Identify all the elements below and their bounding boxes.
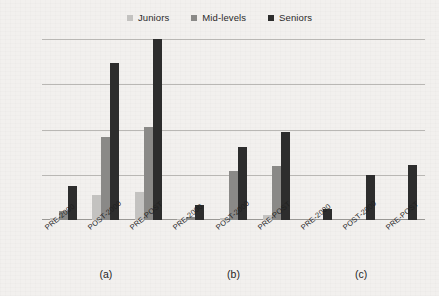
x-label-group: PRE-2000POST-2000PRE-POST: [42, 221, 170, 267]
legend-swatch-icon: [127, 15, 133, 21]
x-label-slot: POST-2000: [340, 221, 383, 267]
bar-group-a: [42, 39, 170, 220]
x-label-slot: POST-2000: [85, 221, 128, 267]
group-label: (a): [42, 268, 170, 286]
bar-clusters: [170, 39, 298, 220]
legend-item-juniors: Juniors: [127, 12, 169, 23]
x-label-slot: POST-2000: [212, 221, 255, 267]
bar-cluster-post-2000: [340, 39, 383, 220]
plot-area: [42, 39, 425, 220]
bar-cluster-pre-2000: [170, 39, 213, 220]
bar-cluster-pre-post: [255, 39, 298, 220]
legend-item-sen: Seniors: [268, 12, 312, 23]
bar-cluster-post-2000: [212, 39, 255, 220]
grouped-bar-chart: JuniorsMid-levelsSeniors 02505007501,000…: [0, 0, 439, 296]
x-label-group: PRE-2000POST-2000PRE-POST: [170, 221, 298, 267]
x-axis-labels: PRE-2000POST-2000PRE-POSTPRE-2000POST-20…: [42, 221, 425, 267]
bar-cluster-pre-post: [382, 39, 425, 220]
legend-label: Mid-levels: [202, 12, 246, 23]
legend-item-mid: Mid-levels: [191, 12, 246, 23]
bar-groups: [42, 39, 425, 220]
x-label-slot: PRE-POST: [255, 221, 298, 267]
bar-cluster-pre-post: [127, 39, 170, 220]
legend-label: Juniors: [138, 12, 169, 23]
bar-cluster-pre-2000: [42, 39, 85, 220]
bar-cluster-post-2000: [85, 39, 128, 220]
x-label-slot: PRE-POST: [382, 221, 425, 267]
x-label-slot: PRE-2000: [297, 221, 340, 267]
x-label-slot: PRE-2000: [170, 221, 213, 267]
bar-clusters: [297, 39, 425, 220]
x-label-group: PRE-2000POST-2000PRE-POST: [297, 221, 425, 267]
legend-label: Seniors: [279, 12, 312, 23]
group-labels: (a)(b)(c): [42, 268, 425, 286]
legend-swatch-icon: [268, 15, 274, 21]
bar-group-b: [170, 39, 298, 220]
bar-clusters: [42, 39, 170, 220]
bar-sen[interactable]: [153, 39, 162, 220]
group-label: (c): [297, 268, 425, 286]
group-label: (b): [170, 268, 298, 286]
bar-group-c: [297, 39, 425, 220]
x-label-slot: PRE-2000: [42, 221, 85, 267]
chart-legend: JuniorsMid-levelsSeniors: [0, 12, 439, 23]
bar-sen[interactable]: [110, 63, 119, 220]
x-label-slot: PRE-POST: [127, 221, 170, 267]
legend-swatch-icon: [191, 15, 197, 21]
bar-cluster-pre-2000: [297, 39, 340, 220]
